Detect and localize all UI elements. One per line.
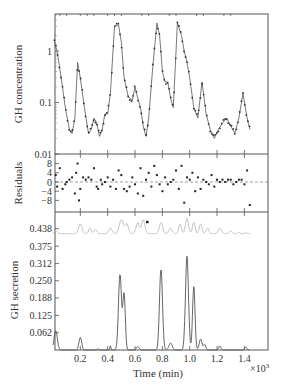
data-point	[149, 108, 151, 110]
data-point	[198, 109, 200, 111]
data-point	[183, 51, 185, 53]
residual-point	[230, 179, 232, 181]
data-point	[214, 134, 216, 136]
data-point	[104, 114, 106, 116]
residual-point	[97, 188, 99, 190]
top-ylabel: GH concentration	[12, 44, 24, 123]
data-point	[60, 77, 62, 79]
data-point	[86, 126, 88, 128]
residual-point	[172, 179, 174, 181]
residual-point	[246, 170, 248, 172]
data-point	[237, 121, 239, 123]
data-point	[122, 67, 124, 69]
data-point	[178, 25, 180, 27]
bot-ytick-label: 0.125	[30, 310, 53, 321]
xtick-label: 1.4	[238, 353, 251, 364]
data-point	[117, 23, 119, 25]
residual-point	[181, 165, 183, 167]
data-point	[145, 134, 147, 136]
data-point	[76, 69, 78, 71]
data-point	[200, 97, 202, 99]
residual-point	[134, 183, 136, 185]
residual-point	[186, 176, 188, 178]
data-point	[195, 110, 197, 112]
residual-point	[227, 179, 229, 181]
residual-point	[241, 179, 243, 181]
data-point	[65, 109, 67, 111]
residual-point	[62, 188, 64, 190]
residual-point	[164, 176, 166, 178]
data-point	[185, 56, 187, 58]
data-point	[108, 105, 110, 107]
data-point	[152, 64, 154, 66]
top-ytick-label: 1	[47, 46, 52, 57]
data-point	[172, 104, 174, 106]
data-point	[83, 103, 85, 105]
data-point	[168, 88, 170, 90]
residual-point	[126, 190, 128, 192]
residual-point	[78, 199, 80, 201]
data-point	[229, 124, 231, 126]
residual-point	[64, 183, 66, 185]
secretion-panel	[53, 219, 250, 351]
data-point	[147, 125, 149, 127]
data-point	[57, 54, 59, 56]
data-point	[96, 124, 98, 126]
data-point	[121, 47, 123, 49]
data-point	[236, 128, 238, 130]
bot-ytick-label: 0.188	[30, 292, 53, 303]
residual-point	[56, 186, 58, 188]
data-point	[73, 120, 75, 122]
data-point	[90, 128, 92, 130]
data-point	[234, 133, 236, 135]
residual-point	[55, 174, 57, 176]
data-point	[226, 118, 228, 120]
data-point	[211, 133, 213, 135]
xtick-label: 1.0	[183, 353, 196, 364]
residual-point	[191, 172, 193, 174]
residual-point	[167, 183, 169, 185]
bot-ytick-label: 0.312	[30, 258, 53, 269]
data-point	[244, 104, 246, 106]
data-point	[98, 130, 100, 132]
xtick-label: 0.8	[156, 353, 169, 364]
data-point	[85, 115, 87, 117]
residual-point	[197, 176, 199, 178]
data-point	[70, 131, 72, 133]
data-point	[241, 100, 243, 102]
data-point	[160, 51, 162, 53]
data-point	[213, 134, 215, 136]
residual-point	[107, 176, 109, 178]
residual-point	[120, 174, 122, 176]
xtick-label: 0.6	[129, 353, 142, 364]
data-point	[204, 105, 206, 107]
data-point	[188, 71, 190, 73]
data-point	[101, 130, 103, 132]
bot-ytick-label: 0.375	[30, 241, 53, 252]
bot-ytick-label: 0.250	[30, 275, 53, 286]
data-point	[68, 129, 70, 131]
data-point	[81, 89, 83, 91]
data-point	[93, 120, 95, 122]
data-point	[163, 79, 165, 81]
data-point	[129, 99, 131, 101]
residual-point	[137, 193, 139, 195]
data-point	[116, 23, 118, 25]
residual-point	[59, 167, 61, 169]
data-point	[242, 92, 244, 94]
residual-point	[129, 186, 131, 188]
residual-point	[96, 186, 98, 188]
residual-point	[156, 174, 158, 176]
data-point	[58, 67, 60, 69]
data-point	[206, 115, 208, 117]
data-point	[162, 70, 164, 72]
data-point	[80, 78, 82, 80]
data-point	[193, 108, 195, 110]
data-point	[190, 83, 192, 85]
x-multiplier: ×103	[250, 362, 270, 374]
data-point	[247, 120, 249, 122]
residual-point	[74, 193, 76, 195]
residual-point	[216, 179, 218, 181]
data-point	[245, 114, 247, 116]
chart-figure: 10.10.01840−4−80.4380.3750.3120.2500.188…	[0, 0, 281, 392]
